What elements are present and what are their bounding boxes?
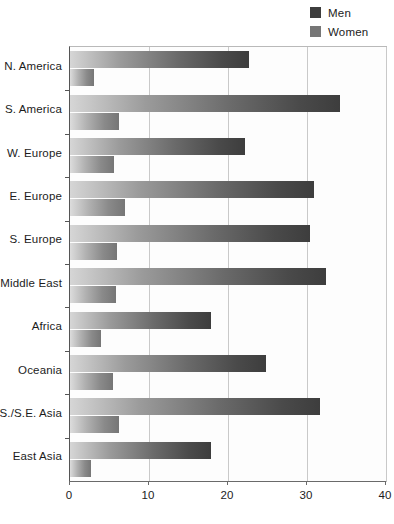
y-axis-label: Oceania [0, 364, 62, 376]
y-axis-ticks [70, 47, 386, 481]
y-axis-label: S./S.E. Asia [0, 407, 62, 419]
x-tick [227, 481, 228, 485]
x-axis-label: 10 [128, 489, 168, 501]
x-axis-label: 30 [286, 489, 326, 501]
chart-legend: Men Women [310, 4, 394, 42]
y-tick [65, 438, 70, 439]
y-tick [65, 134, 70, 135]
plot-area [69, 46, 387, 482]
y-tick [65, 307, 70, 308]
y-axis-label: E. Europe [0, 190, 62, 202]
legend-swatch-women [310, 26, 321, 37]
x-axis-label: 40 [365, 489, 394, 501]
y-axis-label: N. America [0, 60, 62, 72]
y-tick [65, 264, 70, 265]
y-axis-label: East Asia [0, 450, 62, 462]
y-tick [65, 394, 70, 395]
y-axis-label: S. America [0, 103, 62, 115]
y-axis-label: Middle East [0, 277, 62, 289]
y-tick [65, 177, 70, 178]
legend-swatch-men [310, 7, 321, 18]
gridline-40 [386, 47, 387, 481]
legend-item-women: Women [310, 23, 394, 40]
y-tick [65, 221, 70, 222]
legend-label-men: Men [328, 7, 351, 19]
legend-label-women: Women [328, 26, 368, 38]
bar-chart: Men Women N. AmericaS. AmericaW. EuropeE… [0, 0, 394, 524]
y-tick [65, 351, 70, 352]
y-axis-label: Africa [0, 320, 62, 332]
x-tick [69, 481, 70, 485]
y-axis-label: W. Europe [0, 147, 62, 159]
x-axis-label: 20 [207, 489, 247, 501]
x-axis-label: 0 [49, 489, 89, 501]
y-axis-label: S. Europe [0, 233, 62, 245]
x-tick [306, 481, 307, 485]
legend-item-men: Men [310, 4, 394, 21]
x-tick [385, 481, 386, 485]
y-tick [65, 90, 70, 91]
x-tick [148, 481, 149, 485]
